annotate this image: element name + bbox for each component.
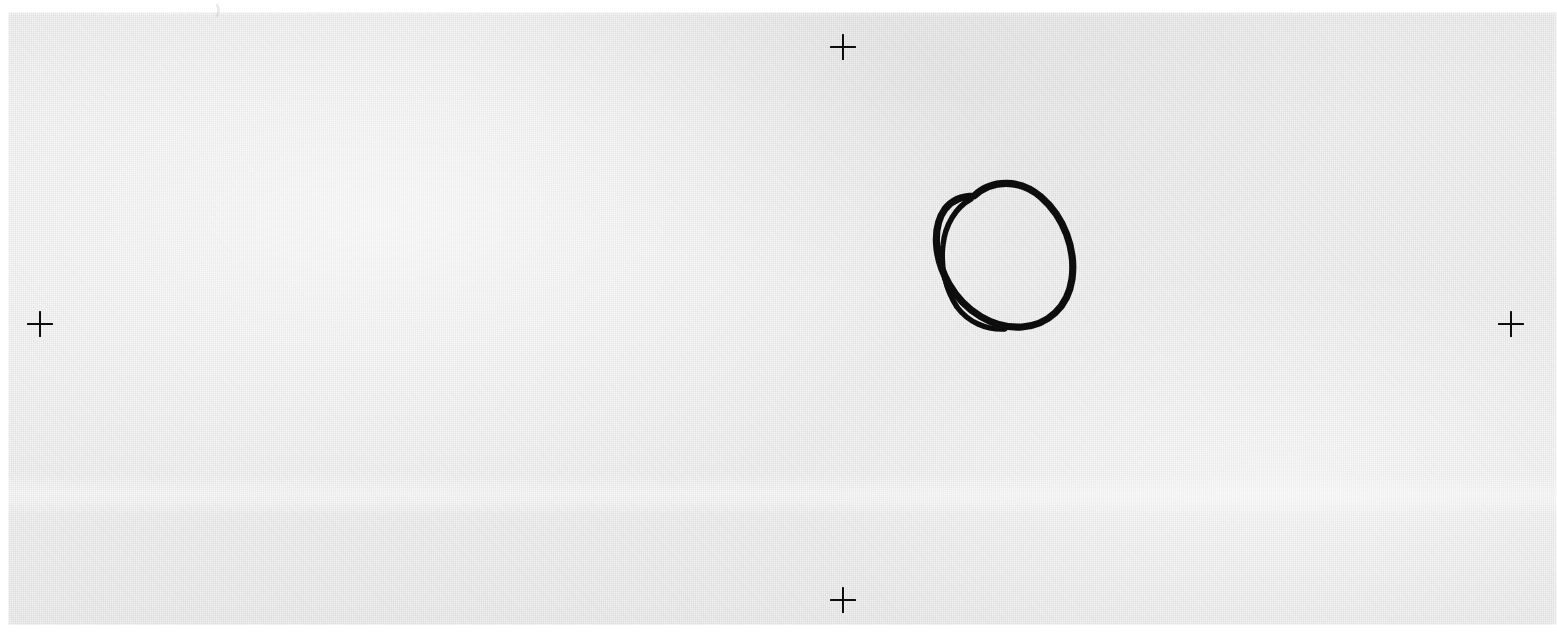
paper-light-band	[8, 474, 1557, 516]
paper-edge-falloff	[8, 12, 1557, 625]
scan-canvas	[0, 0, 1557, 643]
paper-tonal-shading	[8, 12, 1557, 625]
scanned-paper-sheet	[8, 12, 1557, 625]
paper-grain-texture	[8, 12, 1557, 625]
